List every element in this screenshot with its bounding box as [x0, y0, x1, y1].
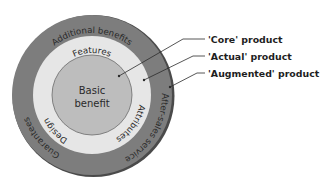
core-label-line1: Basic [79, 85, 105, 96]
augmented-leader-line [170, 73, 205, 87]
legend-core-product: 'Core' product [208, 34, 283, 45]
legend-augmented-product: 'Augmented' product [208, 68, 320, 79]
core-leader-dot [118, 75, 120, 77]
actual-leader-dot [143, 79, 145, 81]
legend-actual-product: 'Actual' product [208, 51, 292, 62]
augmented-leader-dot [169, 86, 171, 88]
core-label-line2: benefit [74, 98, 109, 109]
product-levels-diagram: Basic benefit Features Design Attributes… [0, 0, 321, 187]
